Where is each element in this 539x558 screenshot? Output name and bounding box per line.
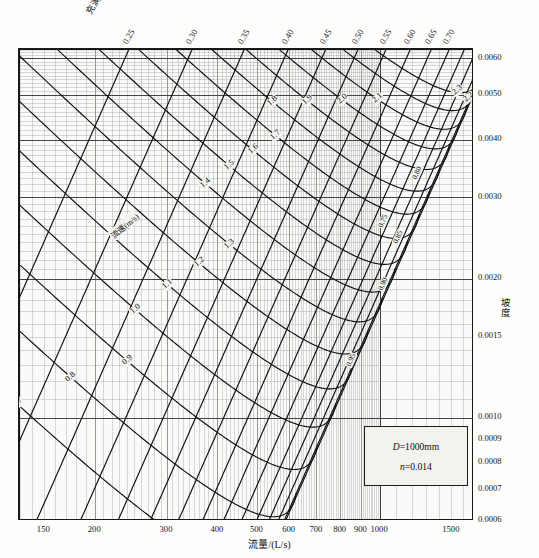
- bottom-tick-600: 600: [275, 525, 303, 534]
- top-tick-0.60: 0.60: [403, 28, 418, 45]
- top-tick-0.30: 0.30: [185, 28, 200, 45]
- top-axis-title: 充满度 h/D: [82, 0, 116, 17]
- top-tick-0.50: 0.50: [350, 28, 365, 45]
- bottom-tick-500: 500: [242, 525, 270, 534]
- top-tick-0.25: 0.25: [121, 28, 136, 45]
- legend-diameter-row: D=1000mm: [393, 441, 439, 452]
- top-tick-0.65: 0.65: [424, 28, 439, 45]
- right-tick-0.0008: 0.0008: [478, 457, 502, 466]
- top-tick-0.45: 0.45: [318, 28, 333, 45]
- legend-roughness-row: n=0.014: [400, 461, 432, 472]
- right-tick-0.001: 0.0010: [478, 412, 502, 421]
- right-tick-0.0006: 0.0006: [478, 515, 502, 524]
- top-tick-0.35: 0.35: [237, 28, 252, 45]
- bottom-tick-1000: 1000: [365, 525, 393, 534]
- bottom-axis-title: 流量/(L/s): [0, 536, 539, 551]
- right-tick-0.004: 0.0040: [478, 134, 502, 143]
- nomograph-page: 充满度 h/D 0.250.300.350.400.450.500.550.60…: [0, 0, 539, 558]
- legend-diameter-value: =1000mm: [400, 441, 440, 452]
- right-tick-0.006: 0.0060: [478, 53, 502, 62]
- parameter-legend-box: D=1000mm n=0.014: [364, 426, 468, 486]
- right-axis-title: 坡度: [498, 298, 512, 318]
- bottom-tick-150: 150: [29, 525, 57, 534]
- right-tick-0.0015: 0.0015: [478, 331, 502, 340]
- right-tick-0.005: 0.0050: [478, 89, 502, 98]
- right-tick-0.0007: 0.0007: [478, 484, 502, 493]
- top-tick-0.40: 0.40: [281, 28, 296, 45]
- top-tick-0.55: 0.55: [378, 28, 393, 45]
- right-tick-0.002: 0.0020: [478, 273, 502, 282]
- legend-roughness-value: =0.014: [405, 461, 432, 472]
- bottom-tick-300: 300: [152, 525, 180, 534]
- bottom-tick-400: 400: [203, 525, 231, 534]
- legend-diameter-symbol: D: [393, 441, 400, 452]
- top-tick-0.70: 0.70: [442, 28, 457, 45]
- bottom-tick-1500: 1500: [437, 525, 465, 534]
- right-tick-0.003: 0.0030: [478, 192, 502, 201]
- bottom-tick-200: 200: [80, 525, 108, 534]
- right-tick-0.0009: 0.0009: [478, 434, 502, 443]
